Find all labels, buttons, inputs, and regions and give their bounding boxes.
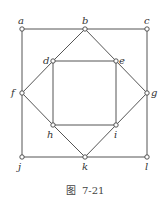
vertex-label-e: e	[119, 55, 125, 66]
vertex-d	[51, 59, 55, 63]
vertex-label-k: k	[82, 161, 88, 172]
graph-diagram: abcdefghijkl 图 7-21	[0, 0, 164, 209]
edge-b-d	[53, 29, 85, 61]
edge-g-i	[116, 93, 147, 125]
vertex-i	[114, 123, 118, 127]
vertex-label-f: f	[10, 87, 17, 98]
edge-b-e	[85, 29, 116, 61]
vertex-label-b: b	[82, 15, 88, 26]
vertex-f	[20, 91, 24, 95]
vertex-label-j: j	[16, 161, 21, 172]
vertex-g	[145, 91, 149, 95]
vertex-label-l: l	[145, 161, 148, 172]
vertex-label-g: g	[151, 87, 157, 98]
vertex-j	[20, 155, 24, 159]
vertex-labels: abcdefghijkl	[10, 15, 157, 172]
vertex-label-i: i	[114, 129, 117, 140]
figure-caption: 图 7-21	[66, 185, 105, 196]
vertex-label-h: h	[47, 129, 53, 140]
vertex-h	[51, 123, 55, 127]
vertex-a	[20, 27, 24, 31]
edge-f-h	[22, 93, 53, 125]
vertex-e	[114, 59, 118, 63]
edges	[22, 29, 147, 157]
vertex-c	[145, 27, 149, 31]
vertex-label-d: d	[43, 55, 49, 66]
vertex-k	[83, 155, 87, 159]
vertex-label-c: c	[144, 15, 150, 26]
vertex-l	[145, 155, 149, 159]
edge-i-k	[85, 125, 116, 157]
vertex-b	[83, 27, 87, 31]
vertices	[20, 27, 149, 159]
vertex-label-a: a	[18, 15, 24, 26]
edge-h-k	[53, 125, 85, 157]
